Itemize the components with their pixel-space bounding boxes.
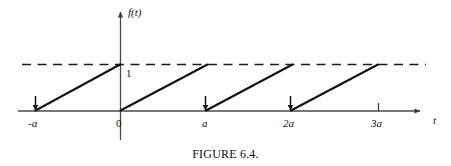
tick-label-a: a: [202, 118, 208, 129]
ramp-segment-2: [121, 65, 208, 111]
tick-label-neg-a: -a: [28, 118, 37, 129]
figure-container: f(t) t 1 -a 0 a 2a 3a FIGURE 6.4.: [0, 0, 451, 166]
y-axis-label: f(t): [128, 7, 141, 18]
tick-label-origin: 0: [116, 118, 122, 129]
ramp-segment-3: [206, 65, 293, 111]
ramp-segment-1: [36, 65, 121, 111]
figure-caption: FIGURE 6.4.: [0, 147, 451, 162]
sawtooth-plot: [0, 0, 451, 166]
tick-label-3a: 3a: [371, 118, 382, 129]
ramp-segment-4: [291, 65, 378, 111]
amplitude-label: 1: [126, 68, 132, 79]
x-axis-label: t: [433, 115, 436, 126]
tick-label-2a: 2a: [283, 118, 294, 129]
